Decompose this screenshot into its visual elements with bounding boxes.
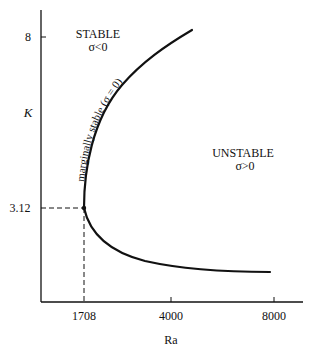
y-axis-label: K (23, 105, 34, 120)
y-tick-label-8: 8 (25, 30, 31, 44)
x-tick-label-1708: 1708 (72, 309, 96, 323)
stability-chart: 8 K 3.12 1708 4000 8000 Ra marginally st… (0, 0, 311, 354)
lower-branch-curve (84, 208, 270, 272)
stable-label: STABLE (76, 27, 120, 41)
critical-point (82, 206, 86, 210)
unstable-sigma-label: σ>0 (235, 159, 254, 173)
x-tick-label-4000: 4000 (159, 309, 183, 323)
x-axis-label: Ra (164, 333, 178, 347)
x-tick-label-8000: 8000 (262, 309, 286, 323)
stable-sigma-label: σ<0 (88, 40, 107, 54)
curve-label: marginally stable (σ = 0) (74, 75, 125, 182)
unstable-label: UNSTABLE (212, 146, 274, 160)
y-tick-label-3-12: 3.12 (10, 201, 31, 215)
